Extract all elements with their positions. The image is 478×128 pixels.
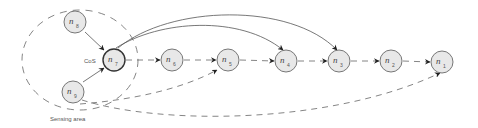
svg-text:3: 3 [340, 62, 343, 68]
node-n8: n 8 [64, 11, 86, 33]
edge-n8-n7 [85, 32, 104, 50]
node-n5: n 5 [217, 49, 239, 71]
node-n1: n 1 [431, 51, 453, 73]
edge-n2-n1 [403, 61, 430, 62]
edge-n9-n7 [83, 68, 104, 82]
node-n7: n 7 [103, 49, 125, 71]
svg-text:1: 1 [443, 63, 446, 69]
svg-text:7: 7 [115, 61, 118, 67]
node-n2: n 2 [380, 50, 402, 72]
cos-label: CoS [84, 58, 96, 64]
svg-text:n: n [67, 86, 72, 96]
arc-n9-n1 [82, 73, 440, 116]
svg-text:n: n [222, 54, 227, 64]
arc-n9-n5 [80, 70, 217, 104]
svg-text:n: n [108, 54, 113, 64]
node-n3: n 3 [328, 50, 350, 72]
edge-n5-n4 [240, 60, 274, 61]
network-diagram: CoS Sensing area n 8 n 7 n 9 n 6 n 5 [0, 0, 478, 128]
svg-text:n: n [166, 54, 171, 64]
svg-text:9: 9 [74, 93, 77, 99]
arc-n7-n4 [116, 25, 283, 50]
svg-text:n: n [69, 16, 74, 26]
svg-text:5: 5 [229, 61, 232, 67]
svg-text:4: 4 [287, 62, 290, 68]
svg-text:n: n [385, 55, 390, 65]
svg-text:n: n [436, 56, 441, 66]
node-n4: n 4 [275, 50, 297, 72]
svg-text:8: 8 [76, 23, 79, 29]
sensing-area-label: Sensing area [50, 116, 86, 122]
svg-text:6: 6 [173, 61, 176, 67]
node-n6: n 6 [161, 49, 183, 71]
svg-text:n: n [333, 55, 338, 65]
node-n9: n 9 [62, 81, 84, 103]
svg-text:n: n [280, 55, 285, 65]
svg-text:2: 2 [392, 62, 395, 68]
